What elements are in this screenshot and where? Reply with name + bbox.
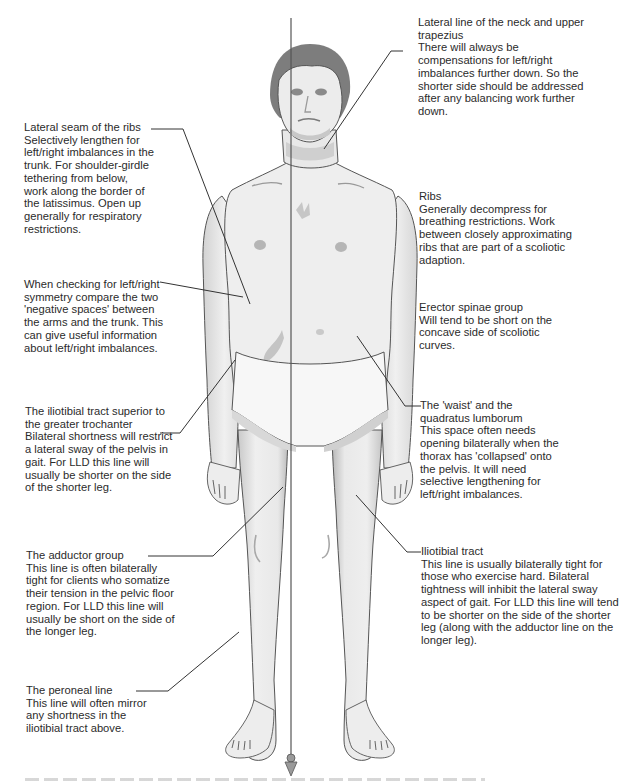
annotation-peroneal-line: The peroneal line This line will often m… bbox=[26, 684, 156, 735]
annotation-title: Ribs bbox=[419, 190, 579, 203]
annotation-lateral-seam-ribs: Lateral seam of the ribs Selectively len… bbox=[24, 121, 154, 235]
annotation-iliotibial-tract: Iliotibial tract This line is usually bi… bbox=[421, 545, 621, 647]
annotation-ribs: Ribs Generally decompress for breathing … bbox=[419, 190, 579, 266]
annotation-waist-quadratus: The 'waist' and the quadratus lumborum T… bbox=[420, 399, 565, 501]
annotation-adductor-group: The adductor group This line is often bi… bbox=[26, 549, 176, 638]
anatomy-diagram: Lateral line of the neck and upper trape… bbox=[0, 0, 634, 782]
plumb-bob-icon bbox=[285, 754, 297, 776]
figure-caption-clipped bbox=[25, 776, 485, 782]
annotation-title: Lateral line of the neck and upper trape… bbox=[418, 16, 593, 41]
annotation-negative-spaces: When checking for left/right symmetry co… bbox=[24, 278, 164, 354]
hands bbox=[207, 462, 412, 504]
annotation-body: This line will often mirror any shortnes… bbox=[26, 697, 156, 735]
annotation-body: When checking for left/right symmetry co… bbox=[24, 278, 164, 354]
annotation-body: Will tend to be short on the concave sid… bbox=[419, 314, 564, 352]
annotation-iliotibial-superior: The iliotibial tract superior to the gre… bbox=[25, 405, 175, 494]
head bbox=[270, 44, 350, 142]
annotation-body: Selectively lengthen for left/right imba… bbox=[24, 134, 154, 236]
annotation-body: Bilateral shortness will restrict a late… bbox=[25, 430, 175, 494]
annotation-title: The iliotibial tract superior to the gre… bbox=[25, 405, 175, 430]
annotation-title: Iliotibial tract bbox=[421, 545, 621, 558]
annotation-title: Lateral seam of the ribs bbox=[24, 121, 154, 134]
annotation-title: The adductor group bbox=[26, 549, 176, 562]
annotation-body: This space often needs opening bilateral… bbox=[420, 424, 565, 500]
annotation-body: This line is often bilaterally tight for… bbox=[26, 562, 176, 638]
annotation-title: The peroneal line bbox=[26, 684, 156, 697]
annotation-body: There will always be compensations for l… bbox=[418, 41, 593, 117]
annotation-title: Erector spinae group bbox=[419, 301, 564, 314]
annotation-erector-spinae: Erector spinae group Will tend to be sho… bbox=[419, 301, 564, 352]
annotation-body: This line is usually bilaterally tight f… bbox=[421, 558, 621, 647]
annotation-neck-trapezius: Lateral line of the neck and upper trape… bbox=[418, 16, 593, 118]
feet bbox=[226, 700, 395, 758]
annotation-title: The 'waist' and the quadratus lumborum bbox=[420, 399, 565, 424]
annotation-body: Generally decompress for breathing restr… bbox=[419, 203, 579, 267]
